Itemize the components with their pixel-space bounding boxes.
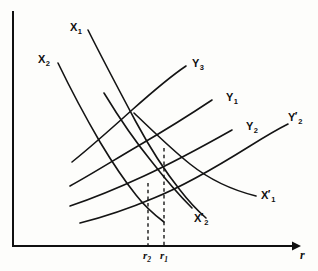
curve-label-x1-prime: X′1 xyxy=(261,190,275,201)
curve-y2 xyxy=(70,130,232,206)
x-axis-label: r xyxy=(300,249,305,261)
curve-label-y2-prime: Y′2 xyxy=(288,112,302,123)
curve-y1 xyxy=(70,100,212,186)
tick-label-r2: r2 xyxy=(143,250,151,261)
curve-label-y3: Y3 xyxy=(192,58,204,69)
curve-y2-prime xyxy=(80,124,288,223)
curve-label-x2: X2 xyxy=(38,54,50,65)
curve-label-y1: Y1 xyxy=(226,92,238,103)
curve-label-y2: Y2 xyxy=(246,121,258,132)
economics-curve-diagram: X1 X2 X′1 X′2 Y3 Y1 Y2 Y′2 r2 r1 r xyxy=(0,0,318,271)
curve-y3 xyxy=(72,66,186,162)
tick-label-r1: r1 xyxy=(160,250,168,261)
curve-label-x1: X1 xyxy=(70,22,82,33)
diagram-canvas xyxy=(0,0,318,271)
curve-label-x2-prime: X′2 xyxy=(194,213,208,224)
curve-x1 xyxy=(88,30,206,218)
